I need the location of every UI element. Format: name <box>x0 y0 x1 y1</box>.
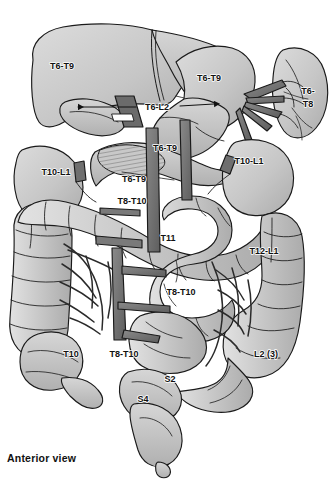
label-pancreas-mid: T6-T9 <box>153 143 177 153</box>
anatomical-figure: T6-T9 T6-T9 T6- T8 T6-L2 T6-T9 T10-L1 T1… <box>0 0 331 479</box>
label-gallbladder-bile: T6-L2 <box>145 102 169 112</box>
label-stomach-lower: T6-T9 <box>122 174 146 184</box>
label-kidney-left: T10-L1 <box>234 156 263 166</box>
label-stomach-upper: T6-T9 <box>197 73 221 83</box>
label-ascending-colon: T8-T10 <box>109 349 138 359</box>
label-rectum: S2 <box>164 374 175 384</box>
abdominal-viscera-illustration: T6-T9 T6-T9 T6- T8 T6-L2 T6-T9 T10-L1 T1… <box>0 0 331 479</box>
label-spleen-line2: T8 <box>303 99 314 109</box>
label-spleen-line1: T6- <box>301 86 315 96</box>
label-liver: T6-T9 <box>50 61 74 71</box>
label-cecum: T10 <box>63 349 79 359</box>
label-descending-colon: T12-L1 <box>249 246 278 256</box>
label-kidney-right: T10-L1 <box>41 167 70 177</box>
label-duodenum: T8-T10 <box>117 196 146 206</box>
figure-caption: Anterior view <box>7 452 76 464</box>
label-jejunum-ileum: T8-T10 <box>166 287 195 297</box>
label-sigmoid-colon: L2 (3) <box>254 349 278 359</box>
label-bladder: S4 <box>137 394 148 404</box>
label-small-intestine: T11 <box>160 233 175 243</box>
